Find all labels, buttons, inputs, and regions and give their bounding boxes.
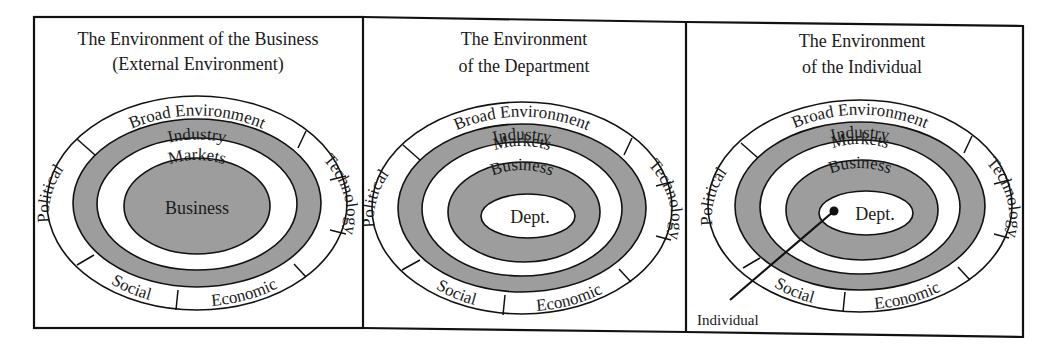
center-label-dept: Dept. (855, 204, 895, 224)
center-label-dept: Dept. (510, 207, 550, 227)
panel-individual-environment: The Environment of the Individual Broad … (697, 31, 1025, 328)
panel-business-environment: The Environment of the Business (Externa… (34, 29, 362, 310)
panel-title-line2: of the Department (459, 56, 590, 76)
environment-diagram: The Environment of the Business (Externa… (0, 0, 1053, 351)
individual-label: Individual (697, 312, 759, 328)
center-label-business: Business (165, 198, 229, 218)
panel-title-line1: The Environment of the Business (78, 29, 319, 49)
panel-title-line2: of the Individual (802, 57, 922, 77)
panel-department-environment: The Environment of the Department Broad … (359, 29, 687, 315)
panel-title-line1: The Environment (799, 31, 925, 51)
panel-title-line1: The Environment (461, 29, 587, 49)
panel-title-line2: (External Environment) (112, 54, 283, 75)
individual-dot-icon (830, 207, 839, 216)
